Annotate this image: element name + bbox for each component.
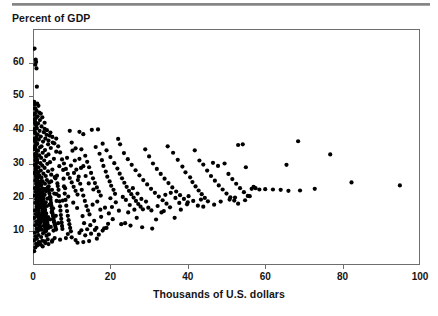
data-point — [44, 133, 48, 137]
data-point — [49, 179, 53, 183]
data-point — [135, 216, 139, 220]
data-point — [186, 194, 190, 198]
data-point — [244, 165, 248, 169]
data-point — [97, 189, 101, 193]
data-point — [313, 187, 317, 191]
data-point — [104, 226, 108, 230]
data-point — [91, 187, 95, 191]
data-point — [72, 185, 76, 189]
data-point — [298, 188, 302, 192]
x-tick-mark — [343, 265, 344, 269]
data-point — [95, 200, 99, 204]
data-point — [33, 159, 37, 163]
data-point — [43, 182, 47, 186]
data-point — [34, 66, 38, 70]
data-point — [177, 201, 181, 205]
data-point — [144, 200, 148, 204]
data-point — [151, 161, 155, 165]
data-point — [97, 233, 101, 237]
data-point — [141, 207, 145, 211]
data-point — [197, 158, 201, 162]
header-rule — [12, 3, 430, 6]
data-point — [55, 181, 59, 185]
data-point — [39, 179, 43, 183]
data-point — [180, 164, 184, 168]
data-point — [103, 206, 107, 210]
data-point — [104, 148, 108, 152]
data-point — [112, 161, 116, 165]
data-point — [110, 205, 114, 209]
x-tick-label: 0 — [19, 271, 47, 282]
data-point — [75, 206, 79, 210]
data-point — [147, 154, 151, 158]
data-point — [66, 172, 70, 176]
x-tick-label: 100 — [406, 271, 434, 282]
data-point — [108, 155, 112, 159]
data-point — [85, 227, 89, 231]
data-point — [111, 217, 115, 221]
data-point — [53, 175, 57, 179]
data-point — [68, 129, 72, 133]
data-point — [105, 175, 109, 179]
data-point — [34, 174, 38, 178]
data-point — [196, 204, 200, 208]
data-point — [33, 63, 37, 67]
data-point — [41, 151, 45, 155]
scatter-plot-figure: Percent of GDP 102030405060020406080100 … — [0, 0, 438, 316]
data-point — [130, 163, 134, 167]
data-point — [95, 237, 99, 241]
y-tick-label: 20 — [4, 191, 24, 202]
data-point — [80, 214, 84, 218]
data-point — [117, 209, 121, 213]
y-tick-label: 60 — [4, 56, 24, 67]
data-point — [126, 210, 130, 214]
data-point — [82, 221, 86, 225]
data-point — [43, 239, 47, 243]
data-point — [33, 153, 37, 157]
data-point — [296, 139, 300, 143]
data-point — [101, 164, 105, 168]
data-point — [54, 150, 58, 154]
data-point — [48, 130, 52, 134]
data-point — [115, 166, 119, 170]
y-tick-label: 10 — [4, 224, 24, 235]
data-point — [191, 199, 195, 203]
y-axis-title: Percent of GDP — [12, 12, 90, 24]
data-point — [58, 209, 62, 213]
data-point — [119, 222, 123, 226]
data-point — [107, 211, 111, 215]
data-point — [39, 183, 43, 187]
data-point — [77, 157, 81, 161]
data-point — [43, 127, 47, 131]
data-point — [37, 129, 41, 133]
data-point — [124, 198, 128, 202]
data-point — [88, 223, 92, 227]
data-point — [113, 192, 117, 196]
y-tick-label: 40 — [4, 123, 24, 134]
data-point — [238, 186, 242, 190]
data-point — [70, 180, 74, 184]
data-point — [213, 179, 217, 183]
data-point — [101, 142, 105, 146]
data-point — [284, 163, 288, 167]
data-point — [219, 200, 223, 204]
data-point — [118, 172, 122, 176]
data-point — [162, 177, 166, 181]
data-point — [188, 175, 192, 179]
data-point — [157, 194, 161, 198]
data-point — [131, 186, 135, 190]
data-point — [33, 249, 36, 253]
data-point — [46, 226, 50, 230]
data-point — [241, 142, 245, 146]
data-point — [89, 171, 93, 175]
data-point — [66, 194, 70, 198]
data-point — [37, 240, 41, 244]
data-point — [203, 196, 207, 200]
data-point — [99, 215, 103, 219]
data-point — [43, 187, 47, 191]
data-point — [173, 196, 177, 200]
data-point — [81, 240, 85, 244]
data-point — [211, 161, 215, 165]
y-tick-mark — [29, 130, 33, 131]
data-point — [109, 184, 113, 188]
